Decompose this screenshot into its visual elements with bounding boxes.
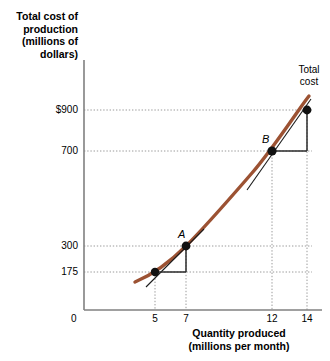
secant-line-b — [247, 99, 311, 190]
secant-line-a — [146, 229, 204, 287]
gridlines — [84, 110, 312, 272]
total-cost-curve — [135, 96, 309, 282]
y-tick-label-175: 175 — [38, 266, 78, 277]
y-tick-label-900: $900 — [38, 104, 78, 115]
plot-area — [0, 0, 330, 361]
x-tick-label-7: 7 — [174, 313, 198, 324]
x-tick-label-5: 5 — [143, 313, 167, 324]
origin-label: 0 — [71, 313, 77, 324]
droplines — [155, 110, 307, 310]
point-label-a: A — [178, 228, 185, 240]
x-axis-title: Quantity produced (millions per month) — [150, 327, 328, 352]
y-tick-label-700: 700 — [38, 145, 78, 156]
x-tick-label-12: 12 — [260, 313, 284, 324]
cost-curve-chart: Total cost of production (millions of do… — [0, 0, 330, 361]
point-5-175 — [151, 268, 159, 276]
y-tick-label-300: 300 — [38, 240, 78, 251]
point-14-900 — [303, 106, 312, 115]
total-cost-curve-label: Total cost — [288, 64, 330, 87]
point-a — [182, 242, 191, 251]
marked-points — [151, 106, 312, 277]
x-tick-label-14: 14 — [295, 313, 319, 324]
point-label-b: B — [262, 133, 269, 145]
point-b — [267, 146, 276, 155]
